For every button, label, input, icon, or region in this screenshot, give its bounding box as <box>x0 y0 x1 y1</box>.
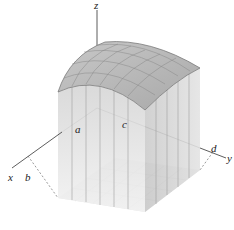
dashed-b <box>28 156 58 198</box>
dashed-d <box>200 152 213 170</box>
x-axis <box>12 132 62 168</box>
riemann-volume-diagram <box>0 0 234 230</box>
bound-d-label: d <box>211 143 217 154</box>
bound-a-label: a <box>75 124 81 135</box>
bound-b-label: b <box>25 172 31 183</box>
y-axis-label: y <box>227 153 232 164</box>
x-axis-label: x <box>8 172 13 183</box>
z-axis-label: z <box>94 0 98 11</box>
bound-c-label: c <box>122 119 127 130</box>
column-front-face <box>58 84 145 212</box>
